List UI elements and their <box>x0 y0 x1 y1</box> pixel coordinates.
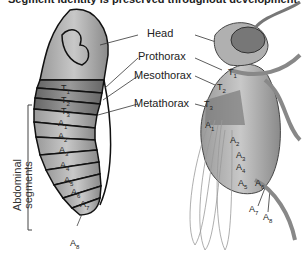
label-abdominal-line2: segments <box>23 150 34 220</box>
adult-seg-a6: A6 <box>255 178 264 190</box>
adult-seg-a2: A2 <box>230 135 239 147</box>
label-prothorax: Prothorax <box>138 50 186 62</box>
label-metathorax: Metathorax <box>134 97 189 109</box>
adult-seg-a1: A1 <box>205 120 214 132</box>
label-mesothorax: Mesothorax <box>134 69 191 81</box>
larva-seg-a3: A3 <box>59 145 68 157</box>
larva-illustration <box>28 9 111 230</box>
adult-seg-t1: T1 <box>228 67 237 79</box>
larva-seg-t1: T1 <box>61 83 70 95</box>
adult-seg-a4: A4 <box>236 162 245 174</box>
label-abdominal-segments: Abdominal segments <box>12 150 34 220</box>
adult-seg-a5: A5 <box>238 178 247 190</box>
label-head: Head <box>147 27 173 39</box>
larva-seg-a5: A5 <box>64 175 73 187</box>
larva-seg-a6: A6 <box>71 187 80 199</box>
adult-seg-a8: A8 <box>263 212 272 224</box>
adult-seg-a3: A3 <box>236 150 245 162</box>
adult-seg-t2: T2 <box>217 82 226 94</box>
adult-seg-t3: T3 <box>204 99 213 111</box>
larva-seg-t3: T3 <box>61 106 70 118</box>
adult-seg-a7: A7 <box>249 204 258 216</box>
larva-seg-a8: A8 <box>70 238 79 250</box>
larva-seg-a7: A7 <box>80 199 89 211</box>
segment-identity-diagram: Segment identity is preserved throughout… <box>0 0 306 255</box>
larva-seg-a1: A1 <box>58 118 67 130</box>
larva-seg-a2: A2 <box>58 131 67 143</box>
larva-seg-a4: A4 <box>60 160 69 172</box>
